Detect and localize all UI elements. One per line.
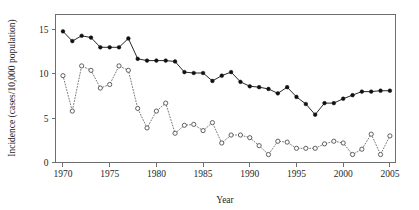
data-point bbox=[155, 59, 159, 63]
data-point bbox=[313, 146, 317, 150]
data-point bbox=[351, 93, 355, 97]
data-point bbox=[192, 122, 196, 126]
data-point bbox=[229, 133, 233, 137]
data-point bbox=[276, 139, 280, 143]
data-point bbox=[323, 101, 327, 105]
data-point bbox=[117, 45, 121, 49]
chart-figure: 19701975198019851990199520002005 051015 … bbox=[0, 0, 419, 210]
data-point bbox=[220, 74, 224, 78]
x-tick-label: 1980 bbox=[147, 169, 166, 179]
y-axis-title: Incidence (cases/10,000 population) bbox=[7, 19, 18, 156]
x-tick-label: 1975 bbox=[100, 169, 119, 179]
series-path-filled-circle-solid-series bbox=[63, 31, 390, 114]
data-point bbox=[201, 129, 205, 133]
series-lines bbox=[63, 31, 390, 154]
x-tick-label: 2000 bbox=[334, 169, 353, 179]
x-axis-title: Year bbox=[216, 195, 234, 205]
data-point bbox=[239, 80, 243, 84]
data-point bbox=[238, 133, 242, 137]
data-point bbox=[267, 87, 271, 91]
data-point bbox=[182, 123, 186, 127]
data-point bbox=[285, 85, 289, 89]
data-point bbox=[248, 84, 252, 88]
y-axis-tick-labels: 051015 bbox=[39, 25, 49, 168]
data-point bbox=[108, 82, 112, 86]
data-point bbox=[229, 70, 233, 74]
data-point bbox=[266, 152, 270, 156]
data-point bbox=[98, 45, 102, 49]
data-point bbox=[61, 74, 65, 78]
data-point bbox=[173, 60, 177, 64]
data-point bbox=[126, 68, 130, 72]
data-point bbox=[211, 79, 215, 83]
x-tick-label: 1970 bbox=[53, 169, 72, 179]
data-point bbox=[257, 144, 261, 148]
data-point bbox=[61, 29, 65, 33]
y-tick-label: 0 bbox=[44, 158, 49, 168]
data-point bbox=[80, 64, 84, 68]
data-point bbox=[369, 132, 373, 136]
data-point bbox=[295, 95, 299, 99]
data-point bbox=[294, 146, 298, 150]
data-point bbox=[360, 147, 364, 151]
x-tick-label: 1995 bbox=[287, 169, 306, 179]
data-point bbox=[378, 152, 382, 156]
data-point bbox=[173, 131, 177, 135]
x-axis-tick-labels: 19701975198019851990199520002005 bbox=[53, 169, 399, 179]
data-point bbox=[248, 136, 252, 140]
data-point bbox=[89, 68, 93, 72]
data-point bbox=[285, 140, 289, 144]
data-point bbox=[332, 101, 336, 105]
data-point bbox=[127, 37, 131, 41]
data-point bbox=[70, 39, 74, 43]
y-axis-ticks bbox=[52, 30, 56, 163]
data-point bbox=[192, 71, 196, 75]
data-point bbox=[183, 70, 187, 74]
data-point bbox=[369, 90, 373, 94]
y-tick-label: 5 bbox=[44, 114, 49, 124]
data-point bbox=[304, 102, 308, 106]
data-point bbox=[379, 89, 383, 93]
data-point bbox=[154, 109, 158, 113]
series-markers bbox=[61, 29, 392, 156]
y-tick-label: 10 bbox=[39, 69, 49, 79]
x-tick-label: 2005 bbox=[380, 169, 399, 179]
data-point bbox=[89, 36, 93, 40]
data-point bbox=[201, 71, 205, 75]
x-axis-ticks bbox=[63, 163, 390, 167]
data-point bbox=[332, 139, 336, 143]
data-point bbox=[145, 126, 149, 130]
data-point bbox=[210, 121, 214, 125]
data-point bbox=[313, 113, 317, 117]
plot-frame bbox=[56, 15, 396, 163]
data-point bbox=[136, 57, 140, 61]
incidence-line-chart: 19701975198019851990199520002005 051015 … bbox=[0, 0, 419, 210]
data-point bbox=[164, 101, 168, 105]
data-point bbox=[360, 90, 364, 94]
data-point bbox=[304, 146, 308, 150]
data-point bbox=[341, 141, 345, 145]
data-point bbox=[70, 109, 74, 113]
data-point bbox=[136, 106, 140, 110]
data-point bbox=[220, 141, 224, 145]
data-point bbox=[388, 89, 392, 93]
data-point bbox=[350, 152, 354, 156]
data-point bbox=[98, 86, 102, 90]
series-path-open-circle-dotted-series bbox=[63, 66, 390, 155]
x-tick-label: 1990 bbox=[240, 169, 259, 179]
data-point bbox=[257, 85, 261, 89]
data-point bbox=[164, 59, 168, 63]
data-point bbox=[145, 59, 149, 63]
x-tick-label: 1985 bbox=[194, 169, 213, 179]
data-point bbox=[276, 92, 280, 96]
data-point bbox=[341, 97, 345, 101]
data-point bbox=[108, 45, 112, 49]
data-point bbox=[322, 142, 326, 146]
data-point bbox=[388, 134, 392, 138]
y-tick-label: 15 bbox=[39, 25, 49, 35]
data-point bbox=[80, 34, 84, 38]
data-point bbox=[117, 64, 121, 68]
